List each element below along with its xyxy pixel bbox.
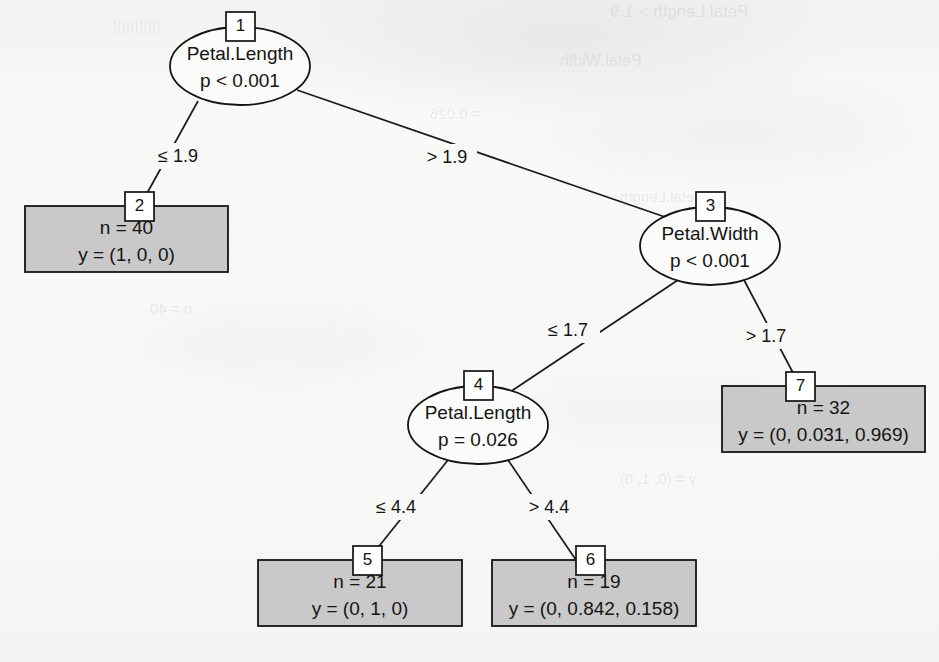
node-3-pvalue: p < 0.001 <box>670 250 750 271</box>
decision-tree-graphic: ≤ 1.9 > 1.9 ≤ 1.7 > 1.7 ≤ 4.4 > 4.4 Peta… <box>0 0 939 662</box>
edge-label-4-5: ≤ 4.4 <box>376 497 416 517</box>
node-1-id: 1 <box>236 16 245 35</box>
node-4[interactable]: Petal.Length p = 0.026 4 <box>408 371 548 464</box>
node-1-variable: Petal.Length <box>187 43 294 64</box>
edge-label-1-2: ≤ 1.9 <box>158 146 198 166</box>
node-4-variable: Petal.Length <box>425 402 532 423</box>
node-5-id: 5 <box>363 550 372 569</box>
node-5[interactable]: n = 21 y = (0, 1, 0) 5 <box>258 546 462 626</box>
node-6[interactable]: n = 19 y = (0, 0.842, 0.158) 6 <box>492 546 696 626</box>
edge-1-3 <box>297 90 668 218</box>
node-3[interactable]: Petal.Width p < 0.001 3 <box>640 192 780 285</box>
node-6-y: y = (0, 0.842, 0.158) <box>509 598 680 619</box>
edge-label-3-4: ≤ 1.7 <box>548 320 588 340</box>
node-7-y: y = (0, 0.031, 0.969) <box>738 424 909 445</box>
edge-label-4-6: > 4.4 <box>529 497 570 517</box>
node-1-pvalue: p < 0.001 <box>200 70 280 91</box>
edge-label-3-7: > 1.7 <box>746 326 787 346</box>
node-6-id: 6 <box>586 550 595 569</box>
node-2-id: 2 <box>135 196 144 215</box>
node-4-id: 4 <box>474 375 483 394</box>
node-3-variable: Petal.Width <box>661 223 758 244</box>
node-2-y: y = (1, 0, 0) <box>78 244 175 265</box>
node-2[interactable]: n = 40 y = (1, 0, 0) 2 <box>25 192 228 272</box>
node-1[interactable]: Petal.Length p < 0.001 1 <box>170 12 310 105</box>
edge-label-1-3: > 1.9 <box>427 147 468 167</box>
node-3-id: 3 <box>706 196 715 215</box>
node-7[interactable]: n = 32 y = (0, 0.031, 0.969) 7 <box>722 372 925 452</box>
node-7-id: 7 <box>796 376 805 395</box>
figure-canvas: ||||||||||| Petal.Length > 1.9 Petal.Wid… <box>0 0 939 662</box>
node-4-pvalue: p = 0.026 <box>438 429 518 450</box>
node-5-y: y = (0, 1, 0) <box>312 598 409 619</box>
